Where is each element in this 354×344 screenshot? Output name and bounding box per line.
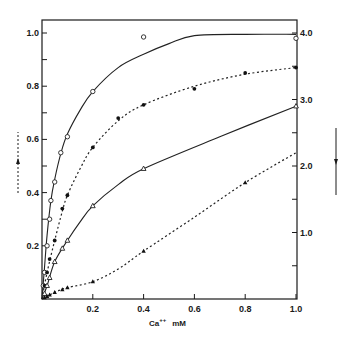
data-point [142, 103, 146, 107]
x-axis-label-unit: mM [172, 319, 186, 328]
data-point [116, 116, 120, 120]
series-line [42, 68, 296, 299]
data-point [53, 290, 57, 294]
y-right-tick-label: 2.0 [300, 161, 313, 171]
data-point [91, 145, 95, 149]
data-point [243, 71, 247, 75]
data-point [49, 198, 53, 202]
series-open-circle [41, 34, 298, 299]
x-axis-label-base: Ca [149, 319, 160, 328]
x-tick-label: 0.2 [87, 304, 100, 314]
left-axis-arrow-icon [16, 132, 20, 193]
x-axis-ticks: 0.20.40.60.81.0 [87, 294, 303, 314]
data-point [48, 257, 52, 261]
data-point [45, 271, 49, 275]
y-right-tick-label: 1.0 [300, 228, 313, 238]
x-tick-label: 1.0 [290, 304, 303, 314]
series-line [42, 34, 296, 299]
data-point [52, 259, 57, 263]
data-point [141, 249, 145, 253]
y-axis-left-ticks: 0.20.40.60.81.0 [26, 28, 47, 272]
data-point [65, 285, 69, 289]
x-tick-label: 0.4 [137, 304, 150, 314]
data-point [53, 239, 57, 243]
data-point [193, 87, 197, 91]
data-point [66, 193, 70, 197]
data-point [45, 244, 49, 248]
series-filled-triangle [42, 153, 296, 300]
data-point [141, 35, 145, 39]
data-point [45, 283, 50, 287]
series-line [42, 153, 296, 299]
data-point [60, 207, 64, 211]
data-point [294, 36, 298, 40]
data-point [59, 151, 63, 155]
data-point [141, 166, 146, 170]
chart: 0.20.40.60.81.0 0.20.40.60.81.0 1.02.03.… [0, 0, 354, 344]
y-right-tick-label: 4.0 [300, 28, 313, 38]
y-axis-right-ticks: 1.02.03.04.0 [292, 28, 313, 266]
data-point [243, 180, 247, 184]
y-left-tick-label: 1.0 [26, 28, 39, 38]
data-point [53, 180, 57, 184]
data-series [41, 34, 298, 299]
data-point [294, 104, 299, 108]
data-point [294, 66, 298, 70]
data-point [47, 217, 51, 221]
y-right-tick-label: 3.0 [300, 95, 313, 105]
y-left-tick-label: 0.6 [26, 134, 39, 144]
series-filled-circle [42, 66, 298, 299]
y-left-tick-label: 0.4 [26, 188, 39, 198]
plot-frame [42, 20, 297, 299]
x-tick-label: 0.6 [188, 304, 201, 314]
series-open-triangle [42, 104, 298, 299]
series-line [42, 106, 296, 299]
data-point [91, 89, 95, 93]
x-axis-label-superscript: ++ [159, 317, 167, 323]
y-left-tick-label: 0.8 [26, 81, 39, 91]
right-axis-arrow-icon [334, 128, 338, 195]
data-point [47, 275, 52, 279]
x-tick-label: 0.8 [239, 304, 252, 314]
data-point [65, 135, 69, 139]
x-axis-label: Ca++mM [149, 317, 186, 328]
y-left-tick-label: 0.2 [26, 241, 39, 251]
